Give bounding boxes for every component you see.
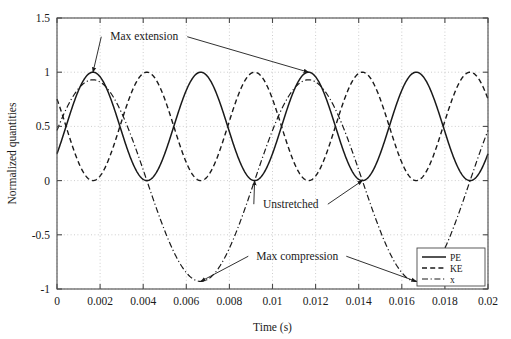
x-tick-label: 0.02 <box>478 295 498 307</box>
x-axis-title: Time (s) <box>253 321 292 334</box>
annotation-leader <box>93 37 101 72</box>
legend-label-ke: KE <box>450 264 463 274</box>
y-axis-title: Normalized quantities <box>6 102 19 204</box>
annotation-leader <box>328 181 363 205</box>
legend-label-pe: PE <box>450 253 461 263</box>
x-tick-label: 0.012 <box>303 295 329 307</box>
annotation-label: Unstretched <box>263 198 319 210</box>
x-tick-label: 0.002 <box>87 295 113 307</box>
annotation-leader <box>201 256 249 281</box>
x-tick-label: 0.018 <box>432 295 458 307</box>
x-tick-label: 0.01 <box>262 295 282 307</box>
chart-figure: 00.0020.0040.0060.0080.010.0120.0140.016… <box>0 0 511 339</box>
annotation-leader <box>346 256 416 281</box>
y-tick-label: 0.5 <box>36 120 51 132</box>
x-tick-label: 0.014 <box>346 295 372 307</box>
y-tick-label: 0 <box>44 175 50 187</box>
x-tick-label: 0.006 <box>173 295 199 307</box>
x-tick-label: 0 <box>54 295 60 307</box>
y-tick-label: 1.5 <box>36 12 51 24</box>
y-tick-label: -1 <box>40 283 50 295</box>
annotation-label: Max compression <box>256 250 338 263</box>
x-tick-label: 0.004 <box>130 295 156 307</box>
plot-svg: 00.0020.0040.0060.0080.010.0120.0140.016… <box>0 0 511 339</box>
y-tick-label: -0.5 <box>32 229 50 241</box>
y-tick-label: 1 <box>44 66 50 78</box>
legend-label-x: x <box>450 275 455 285</box>
annotation-leader <box>187 37 308 72</box>
x-tick-label: 0.016 <box>389 295 415 307</box>
annotation-label: Max extension <box>110 30 178 42</box>
x-tick-label: 0.008 <box>216 295 242 307</box>
